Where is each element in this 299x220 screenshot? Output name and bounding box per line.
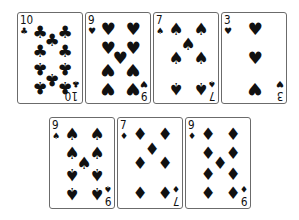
diamond-icon: ♦ xyxy=(188,132,196,141)
card-9-of-spades[interactable]: 9 ♠ ♠ ♠ ♠ ♠ ♠ ♠ ♠ ♠ ♠ ♠ 9 xyxy=(49,117,115,209)
heart-icon: ♥ xyxy=(88,27,96,36)
heart-icon: ♥ xyxy=(124,61,142,78)
card-10-of-clubs[interactable]: 10 ♣ ♣ ♣ ♣ ♣ ♣ ♣ ♣ ♣ ♣ ♣ ♣ 10 xyxy=(17,12,83,104)
card-rank: 9 xyxy=(52,118,59,132)
spade-icon: ♠ xyxy=(167,80,185,97)
card-7-of-diamonds[interactable]: 7 ♦ ♦ ♦ ♦ ♦ ♦ ♦ ♦ ♦ 7 xyxy=(117,117,183,209)
diamond-icon: ♦ xyxy=(131,155,149,172)
card-rank: 10 xyxy=(65,89,78,103)
card-rank: 9 xyxy=(88,13,95,27)
club-icon: ♣ xyxy=(20,27,28,36)
card-3-of-hearts[interactable]: 3 ♥ ♥ ♥ ♥ ♥ 3 xyxy=(221,12,287,104)
card-rank: 7 xyxy=(120,118,127,132)
heart-icon: ♥ xyxy=(124,21,142,38)
card-rank: 9 xyxy=(241,194,248,208)
spade-icon: ♠ xyxy=(167,50,185,67)
club-icon: ♣ xyxy=(31,43,49,60)
diamond-icon: ♦ xyxy=(199,185,217,202)
card-rank: 3 xyxy=(277,89,284,103)
spade-icon: ♠ xyxy=(104,184,112,193)
heart-icon: ♥ xyxy=(276,79,284,88)
card-rank: 9 xyxy=(188,118,195,132)
diamond-icon: ♦ xyxy=(120,132,128,141)
card-rank: 7 xyxy=(209,89,216,103)
spade-icon: ♠ xyxy=(192,50,210,67)
club-icon: ♣ xyxy=(56,43,74,60)
heart-icon: ♥ xyxy=(224,27,232,36)
heart-icon: ♥ xyxy=(99,80,117,97)
diamond-icon: ♦ xyxy=(240,184,248,193)
club-icon: ♣ xyxy=(72,79,80,88)
heart-icon: ♥ xyxy=(99,61,117,78)
card-rank: 7 xyxy=(173,194,180,208)
heart-icon: ♥ xyxy=(246,80,264,97)
card-rank: 7 xyxy=(156,13,163,27)
card-rank: 3 xyxy=(224,13,231,27)
spade-icon: ♠ xyxy=(52,132,60,141)
spade-icon: ♠ xyxy=(63,185,81,202)
diamond-icon: ♦ xyxy=(224,166,242,183)
card-9-of-diamonds[interactable]: 9 ♦ ♦ ♦ ♦ ♦ ♦ ♦ ♦ ♦ ♦ ♦ 9 xyxy=(185,117,251,209)
spade-icon: ♠ xyxy=(63,126,81,143)
club-icon: ♣ xyxy=(56,24,74,41)
club-icon: ♣ xyxy=(31,79,49,96)
spade-icon: ♠ xyxy=(88,166,106,183)
heart-icon: ♥ xyxy=(140,79,148,88)
diamond-icon: ♦ xyxy=(199,126,217,143)
card-rank: 9 xyxy=(105,194,112,208)
card-9-of-hearts[interactable]: 9 ♥ ♥ ♥ ♥ ♥ ♥ ♥ ♥ ♥ ♥ ♥ 9 xyxy=(85,12,151,104)
diamond-icon: ♦ xyxy=(172,184,180,193)
heart-icon: ♥ xyxy=(99,21,117,38)
diamond-icon: ♦ xyxy=(156,155,174,172)
spade-icon: ♠ xyxy=(88,126,106,143)
spade-icon: ♠ xyxy=(208,79,216,88)
spade-icon: ♠ xyxy=(156,27,164,36)
diamond-icon: ♦ xyxy=(224,126,242,143)
diamond-icon: ♦ xyxy=(199,166,217,183)
spade-icon: ♠ xyxy=(63,166,81,183)
heart-icon: ♥ xyxy=(246,50,264,67)
card-7-of-spades[interactable]: 7 ♠ ♠ ♠ ♠ ♠ ♠ ♠ ♠ ♠ 7 xyxy=(153,12,219,104)
card-rank: 9 xyxy=(141,89,148,103)
diamond-icon: ♦ xyxy=(131,185,149,202)
heart-icon: ♥ xyxy=(246,21,264,38)
